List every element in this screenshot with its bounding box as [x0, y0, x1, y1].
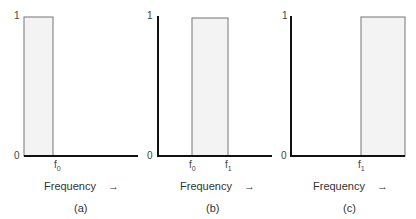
x-axis-title: Frequency	[44, 180, 96, 192]
panel-b-passband	[192, 18, 228, 156]
panel-b-tick-f0: f0	[189, 159, 196, 175]
panel-c-y-top-label: 1	[282, 10, 288, 22]
panel-a-caption: (a)	[74, 202, 87, 214]
panel-b-y-bottom-label: 0	[147, 150, 153, 162]
panel-c-y-bottom-label: 0	[281, 150, 287, 162]
x-axis-title: Frequency	[313, 180, 365, 192]
panel-b-y-top-label: 1	[147, 10, 153, 22]
tick-subscript: 1	[361, 165, 365, 172]
panel-a-y-top-label: 1	[14, 10, 20, 22]
tick-subscript: 0	[57, 165, 61, 172]
panel-a-passband	[24, 17, 53, 156]
panel-b-plot	[157, 16, 272, 156]
panel-b-tick-f1: f1	[225, 159, 232, 175]
right-arrow-icon: →	[108, 180, 119, 192]
panel-b-caption: (b)	[206, 202, 219, 214]
panel-b-x-axis-label: Frequency→	[180, 180, 255, 192]
x-axis-title: Frequency	[180, 180, 232, 192]
panel-c-x-axis-label: Frequency→	[313, 180, 388, 192]
tick-subscript: 1	[228, 165, 232, 172]
panel-c-tick-f1: f1	[358, 159, 365, 175]
panel-c-caption: (c)	[343, 202, 356, 214]
tick-subscript: 0	[192, 165, 196, 172]
panel-a-tick-f0: f0	[54, 159, 61, 175]
panel-c-plot	[290, 16, 405, 156]
right-arrow-icon: →	[377, 180, 388, 192]
panel-a-plot	[24, 17, 138, 156]
panel-c-passband	[361, 17, 405, 156]
panel-a-y-bottom-label: 0	[14, 150, 20, 162]
right-arrow-icon: →	[244, 180, 255, 192]
panel-a-x-axis-label: Frequency→	[44, 180, 119, 192]
